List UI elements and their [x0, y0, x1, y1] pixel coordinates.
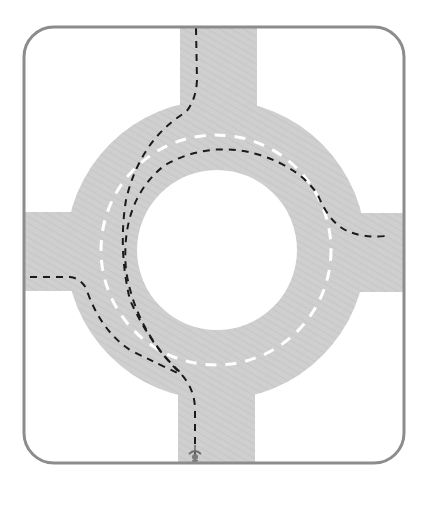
central-island — [137, 170, 297, 330]
roundabout-diagram — [0, 0, 425, 510]
